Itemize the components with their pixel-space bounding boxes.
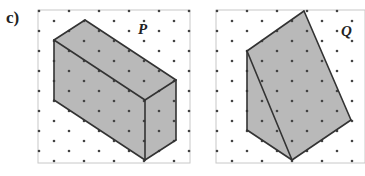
grid-dot [188,70,191,73]
grid-dot [216,50,219,53]
grid-dot [188,10,191,13]
grid-dot [68,10,71,13]
isometric-diagram: PQ [0,0,365,176]
grid-dot [351,100,354,103]
grid-dot [188,90,191,93]
grid-dot [38,50,41,53]
grid-dot [68,90,71,93]
grid-dot [276,90,279,93]
grid-dot [98,110,101,113]
grid-dot [336,70,339,73]
grid-dot [98,90,101,93]
grid-dot [351,40,354,43]
grid-dot [231,160,234,163]
grid-dot [113,20,116,23]
grid-dot [38,10,41,13]
grid-dot [83,160,86,163]
grid-dot [143,40,146,43]
grid-dot [351,20,354,23]
grid-dot [306,130,309,133]
grid-dot [173,120,176,123]
grid-dot [216,90,219,93]
grid-dot [216,150,219,153]
grid-dot [276,130,279,133]
grid-dot [158,110,161,113]
grid-dot [351,80,354,83]
grid-dot [261,80,264,83]
grid-dot [68,150,71,153]
grid-dot [291,120,294,123]
grid-dot [128,110,131,113]
grid-dot [143,80,146,83]
grid-dot [128,30,131,33]
grid-dot [246,150,249,153]
grid-dot [261,120,264,123]
grid-dot [216,110,219,113]
grid-dot [261,100,264,103]
grid-dot [231,100,234,103]
grid-dot [98,150,101,153]
grid-dot [38,130,41,133]
grid-dot [113,60,116,63]
grid-dot [38,30,41,33]
grid-dot [306,10,309,13]
grid-dot [336,110,339,113]
grid-dot [98,10,101,13]
grid-dot [38,110,41,113]
grid-dot [98,50,101,53]
grid-dot [306,110,309,113]
grid-dot [246,30,249,33]
grid-dot [321,20,324,23]
grid-dot [276,50,279,53]
grid-dot [38,70,41,73]
grid-dot [321,80,324,83]
grid-dot [113,120,116,123]
grid-dot [216,10,219,13]
grid-dot [291,140,294,143]
grid-dot [53,160,56,163]
grid-dot [291,40,294,43]
grid-dot [276,10,279,13]
grid-dot [336,10,339,13]
grid-dot [83,100,86,103]
grid-dot [336,50,339,53]
figure-label-p: P [138,21,148,37]
grid-dot [173,160,176,163]
grid-dot [321,160,324,163]
grid-dot [53,20,56,23]
grid-dot [231,80,234,83]
grid-dot [321,60,324,63]
grid-dot [68,130,71,133]
grid-dot [173,20,176,23]
grid-dot [306,30,309,33]
grid-dot [231,40,234,43]
grid-dot [351,140,354,143]
grid-dot [158,10,161,13]
grid-dot [38,90,41,93]
grid-dot [113,160,116,163]
grid-dot [216,30,219,33]
grid-dot [188,50,191,53]
grid-dot [173,40,176,43]
grid-dot [306,50,309,53]
grid-dot [351,60,354,63]
grid-dot [291,100,294,103]
grid-dot [216,130,219,133]
grid-dot [276,70,279,73]
grid-dot [276,110,279,113]
grid-dot [306,90,309,93]
grid-dot [231,20,234,23]
grid-dot [321,120,324,123]
grid-dot [188,110,191,113]
grid-dot [261,20,264,23]
grid-dot [321,100,324,103]
grid-dot [351,160,354,163]
grid-dot [128,130,131,133]
figure-label-q: Q [341,23,352,39]
figure-q: Q [216,10,365,163]
grid-dot [188,130,191,133]
grid-dot [246,10,249,13]
grid-dot [291,80,294,83]
grid-dot [216,70,219,73]
grid-dot [83,80,86,83]
